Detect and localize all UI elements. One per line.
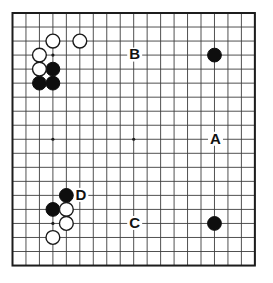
- black-stone: [208, 217, 222, 231]
- white-stone: [46, 231, 60, 245]
- black-stone: [33, 76, 47, 90]
- star-point: [51, 222, 54, 225]
- star-point: [132, 138, 135, 141]
- move-label-B: B: [129, 45, 140, 62]
- black-stone: [208, 48, 222, 62]
- board-background: [0, 0, 273, 283]
- star-point: [51, 53, 54, 56]
- white-stone: [46, 34, 60, 48]
- white-stone: [73, 34, 87, 48]
- move-label-D: D: [75, 186, 86, 203]
- black-stone: [59, 188, 73, 202]
- go-board-svg: ABCD: [0, 0, 273, 283]
- move-label-A: A: [210, 130, 221, 147]
- black-stone: [46, 62, 60, 76]
- star-point: [51, 138, 54, 141]
- white-stone: [33, 48, 47, 62]
- white-stone: [33, 62, 47, 76]
- black-stone: [46, 203, 60, 217]
- white-stone: [59, 203, 73, 217]
- white-stone: [59, 217, 73, 231]
- black-stone: [46, 76, 60, 90]
- move-label-C: C: [129, 214, 140, 231]
- go-board: ABCD: [0, 0, 273, 283]
- go-diagram-page: ABCD: [0, 0, 273, 283]
